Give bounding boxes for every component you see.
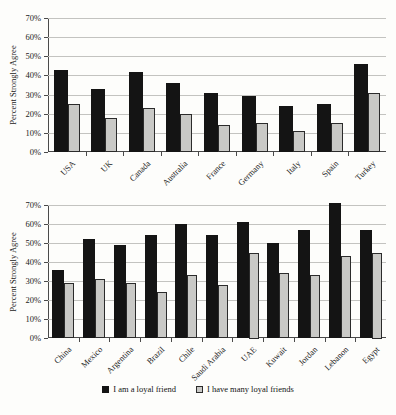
- bar-many-loyal-friends-uk: [105, 118, 117, 152]
- x-tick-mark: [355, 338, 356, 342]
- bar-loyal-friend-turkey: [354, 64, 368, 152]
- y-tick-mark: [44, 338, 48, 339]
- bar-loyal-friend-chile: [175, 224, 187, 338]
- x-tick-mark: [140, 338, 141, 342]
- bar-loyal-friend-saudi-arabia: [206, 235, 218, 338]
- y-tick-mark: [44, 18, 48, 19]
- y-tick-label: 30%: [11, 277, 41, 286]
- bar-loyal-friend-egypt: [360, 230, 372, 338]
- bar-many-loyal-friends-china: [64, 283, 74, 338]
- bar-loyal-friend-argentina: [114, 245, 126, 338]
- y-tick-mark: [44, 262, 48, 263]
- bar-many-loyal-friends-spain: [331, 123, 343, 152]
- bar-loyal-friend-spain: [317, 104, 331, 152]
- bar-many-loyal-friends-canada: [143, 108, 155, 152]
- gridline-40: [48, 75, 386, 76]
- bar-loyal-friend-germany: [242, 96, 256, 152]
- bar-many-loyal-friends-egypt: [372, 253, 382, 339]
- bar-many-loyal-friends-saudi-arabia: [218, 285, 228, 338]
- y-tick-label: 40%: [11, 71, 41, 80]
- x-tick-mark: [263, 338, 264, 342]
- y-tick-mark: [44, 243, 48, 244]
- gridline-70: [48, 18, 386, 19]
- bar-loyal-friend-jordan: [298, 230, 310, 338]
- x-tick-mark: [202, 338, 203, 342]
- y-tick-label: 0%: [11, 148, 41, 157]
- bar-loyal-friend-france: [204, 93, 218, 152]
- bar-many-loyal-friends-australia: [180, 114, 192, 152]
- y-tick-label: 20%: [11, 296, 41, 305]
- x-tick-mark: [171, 338, 172, 342]
- bar-loyal-friend-brazil: [145, 235, 157, 338]
- y-tick-mark: [44, 56, 48, 57]
- x-tick-mark: [86, 152, 87, 156]
- bar-many-loyal-friends-turkey: [368, 93, 380, 152]
- x-tick-mark: [198, 152, 199, 156]
- legend-swatch-gray-icon: [196, 386, 203, 393]
- y-tick-mark: [44, 95, 48, 96]
- y-tick-mark: [44, 319, 48, 320]
- bar-loyal-friend-uae: [237, 222, 249, 338]
- gridline-50: [48, 56, 386, 57]
- bar-loyal-friend-australia: [166, 83, 180, 152]
- x-tick-mark: [236, 152, 237, 156]
- y-tick-label: 40%: [11, 258, 41, 267]
- y-tick-label: 60%: [11, 220, 41, 229]
- x-tick-mark: [294, 338, 295, 342]
- y-tick-label: 10%: [11, 315, 41, 324]
- bar-loyal-friend-mexico: [83, 239, 95, 338]
- bar-many-loyal-friends-italy: [293, 131, 305, 152]
- bar-loyal-friend-lebanon: [329, 203, 341, 338]
- y-tick-label: 50%: [11, 52, 41, 61]
- y-tick-label: 60%: [11, 33, 41, 42]
- bar-many-loyal-friends-germany: [256, 123, 268, 152]
- bar-many-loyal-friends-usa: [68, 104, 80, 152]
- gridline-60: [48, 37, 386, 38]
- bar-loyal-friend-usa: [54, 70, 68, 152]
- bar-loyal-friend-canada: [129, 72, 143, 152]
- y-tick-mark: [44, 133, 48, 134]
- x-tick-mark: [109, 338, 110, 342]
- bar-loyal-friend-china: [52, 270, 64, 338]
- y-tick-mark: [44, 114, 48, 115]
- loyalty-bar-charts-figure: Percent Strongly Agree Percent Strongly …: [0, 0, 396, 415]
- bar-loyal-friend-italy: [279, 106, 293, 152]
- bar-many-loyal-friends-brazil: [157, 292, 167, 338]
- y-tick-label: 0%: [11, 334, 41, 343]
- bar-many-loyal-friends-france: [218, 125, 230, 152]
- y-tick-label: 10%: [11, 129, 41, 138]
- y-tick-mark: [44, 300, 48, 301]
- x-tick-mark: [79, 338, 80, 342]
- x-tick-mark: [232, 338, 233, 342]
- bar-many-loyal-friends-mexico: [95, 279, 105, 338]
- y-tick-mark: [44, 224, 48, 225]
- bar-many-loyal-friends-jordan: [310, 275, 320, 338]
- bar-loyal-friend-kuwait: [267, 243, 279, 338]
- y-tick-mark: [44, 281, 48, 282]
- x-tick-mark: [273, 152, 274, 156]
- y-tick-mark: [44, 37, 48, 38]
- y-tick-mark: [44, 205, 48, 206]
- legend-swatch-black-icon: [102, 386, 109, 393]
- bar-loyal-friend-uk: [91, 89, 105, 152]
- x-tick-mark: [325, 338, 326, 342]
- x-tick-mark: [311, 152, 312, 156]
- x-tick-mark: [348, 152, 349, 156]
- y-tick-label: 70%: [11, 14, 41, 23]
- bar-many-loyal-friends-uae: [249, 253, 259, 339]
- x-tick-mark: [161, 152, 162, 156]
- bar-many-loyal-friends-chile: [187, 275, 197, 338]
- x-tick-mark: [123, 152, 124, 156]
- y-tick-label: 70%: [11, 201, 41, 210]
- legend-item-i-am-a-loyal-friend: I am a loyal friend: [102, 384, 176, 394]
- y-tick-mark: [44, 152, 48, 153]
- bar-many-loyal-friends-argentina: [126, 283, 136, 338]
- y-tick-label: 30%: [11, 91, 41, 100]
- bar-many-loyal-friends-kuwait: [279, 273, 289, 338]
- y-tick-label: 20%: [11, 110, 41, 119]
- y-tick-label: 50%: [11, 239, 41, 248]
- y-tick-mark: [44, 75, 48, 76]
- bar-many-loyal-friends-lebanon: [341, 256, 351, 338]
